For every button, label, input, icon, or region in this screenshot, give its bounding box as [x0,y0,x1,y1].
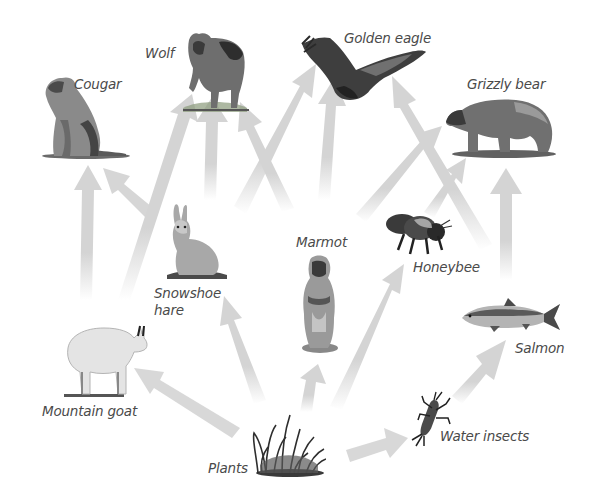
mountain-goat-illustration [64,322,150,398]
food-web-diagram: Cougar Wolf Golden eagle Grizzly bear [0,0,598,498]
label-wolf: Wolf [145,45,174,62]
wolf-illustration [183,30,251,112]
arrow-plants-to-water-insects [346,428,408,462]
label-marmot: Marmot [296,234,347,251]
label-snowshoe-hare-line1: Snowshoe [154,285,221,302]
label-honeybee: Honeybee [413,259,480,276]
plants-illustration [252,413,326,477]
snowshoe-hare-illustration [165,203,229,279]
arrow-snowshoe-hare-to-wolf [196,97,228,200]
arrow-water-insects-to-salmon [452,340,506,404]
arrow-salmon-to-grizzly-bear [490,168,522,280]
label-salmon: Salmon [515,340,564,357]
salmon-illustration [460,296,562,334]
grizzly-bear-illustration [444,96,556,158]
marmot-illustration [300,252,338,354]
arrow-plants-to-snowshoe-hare [220,296,266,404]
honeybee-illustration [384,210,454,256]
label-mountain-goat: Mountain goat [42,403,137,420]
label-snowshoe-hare-line2: hare [154,302,184,319]
label-plants: Plants [208,460,248,477]
arrow-mountain-goat-to-cougar [74,165,102,300]
arrow-plants-to-marmot [300,364,326,412]
label-cougar: Cougar [74,76,121,93]
label-golden-eagle: Golden eagle [344,30,431,47]
label-grizzly-bear: Grizzly bear [467,76,545,93]
arrow-plants-to-honeybee [330,264,404,410]
label-water-insects: Water insects [440,428,529,445]
